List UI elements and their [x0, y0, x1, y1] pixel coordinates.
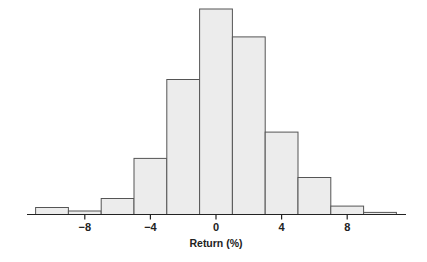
histogram-bar [200, 9, 233, 215]
histogram-bar [101, 199, 134, 215]
x-tick-label: 8 [344, 221, 350, 233]
histogram-bar [134, 158, 167, 214]
histogram-bar [232, 37, 265, 215]
histogram-bars [36, 9, 397, 215]
x-axis-title: Return (%) [189, 237, 242, 249]
x-tick-label: 0 [213, 221, 219, 233]
x-tick-label: −4 [144, 221, 157, 233]
histogram-bar [298, 178, 331, 215]
x-tick-label: −8 [79, 221, 92, 233]
x-tick-label: 4 [279, 221, 286, 233]
histogram-bar [36, 208, 69, 215]
histogram-chart: −8−4048 Return (%) [0, 0, 427, 262]
histogram-bar [167, 80, 200, 215]
x-axis-ticks: −8−4048 [79, 215, 351, 234]
histogram-bar [331, 206, 364, 214]
histogram-bar [265, 132, 298, 214]
